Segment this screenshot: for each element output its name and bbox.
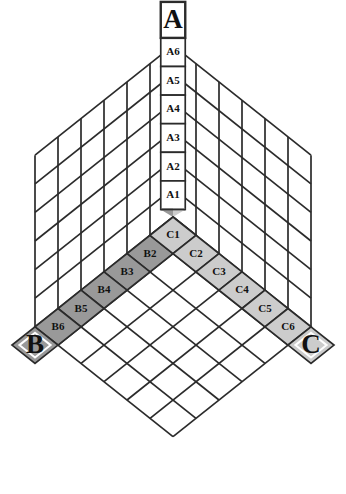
c-cell-label-c5: C5 [258, 302, 272, 314]
vertex-label-a: A [163, 4, 183, 34]
c-cell-label-c2: C2 [189, 247, 203, 259]
c-cell-label-c3: C3 [212, 265, 226, 277]
b-cell-label-b3: B3 [121, 265, 134, 277]
a-cell-label-a6: A6 [166, 45, 180, 57]
a-cell-label-a5: A5 [166, 74, 180, 86]
a-axis-column: A6A5A4A3A2A1A [161, 2, 186, 210]
a-cell-label-a4: A4 [166, 102, 180, 114]
a-cell-label-a2: A2 [166, 160, 180, 172]
a-cell-label-a3: A3 [166, 131, 180, 143]
c-cell-label-c6: C6 [281, 320, 295, 332]
c-cell-label-c4: C4 [235, 283, 249, 295]
a-cell-label-a1: A1 [166, 188, 179, 200]
b-cell-label-b5: B5 [75, 302, 88, 314]
c-cell-label-c1: C1 [166, 228, 179, 240]
vertex-label-c: C [301, 329, 321, 359]
b-cell-label-b6: B6 [52, 320, 65, 332]
vertex-label-b: B [26, 329, 44, 359]
b-cell-label-b2: B2 [144, 247, 157, 259]
lattice-svg: A6A5A4A3A2A1AB1B2B3B4B5B6BC1C2C3C4C5C6C [0, 0, 346, 494]
lattice-diagram: A6A5A4A3A2A1AB1B2B3B4B5B6BC1C2C3C4C5C6C [0, 0, 346, 494]
b-cell-label-b4: B4 [98, 283, 111, 295]
